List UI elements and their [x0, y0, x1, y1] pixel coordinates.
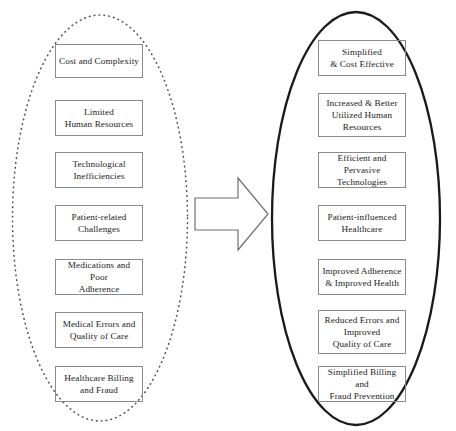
left-item-cost-and-complexity: Cost and Complexity [55, 44, 143, 78]
right-item-label: Improved Adherence& Improved Health [322, 265, 402, 289]
left-item-healthcare-billing-and-fraud: Healthcare Billingand Fraud [55, 366, 143, 402]
left-item-label: TechnologicalInefficiencies [59, 158, 139, 182]
right-item-simplified-and-cost-effective: Simplified& Cost Effective [318, 40, 406, 76]
left-item-medical-errors-and-quality-of-care: Medical Errors andQuality of Care [55, 312, 143, 348]
right-item-label: Simplified Billing andFraud Prevention [322, 366, 402, 402]
left-item-label: Healthcare Billingand Fraud [59, 372, 139, 396]
left-item-label: Medical Errors andQuality of Care [59, 318, 139, 342]
left-item-limited-human-resources: LimitedHuman Resources [55, 100, 143, 136]
diagram-canvas: Cost and Complexity LimitedHuman Resourc… [0, 0, 456, 431]
transformation-arrow-icon [195, 178, 268, 250]
left-item-label: Cost and Complexity [59, 55, 139, 67]
right-item-label: Patient-influencedHealthcare [322, 211, 402, 235]
left-item-technological-inefficiencies: TechnologicalInefficiencies [55, 152, 143, 188]
right-item-label: Efficient andPervasive Technologies [322, 152, 402, 188]
right-item-reduced-errors-and-improved-quality-of-care: Reduced Errors andImprovedQuality of Car… [318, 310, 406, 354]
left-item-label: Patient-relatedChallenges [59, 211, 139, 235]
right-item-label: Reduced Errors andImprovedQuality of Car… [322, 314, 402, 350]
right-item-label: Increased & BetterUtilized HumanResource… [322, 97, 402, 133]
left-item-patient-related-challenges: Patient-relatedChallenges [55, 205, 143, 241]
right-item-simplified-billing-and-fraud-prevention: Simplified Billing andFraud Prevention [318, 366, 406, 402]
left-item-medications-and-poor-adherence: Medications and PoorAdherence [55, 259, 143, 295]
left-item-label: LimitedHuman Resources [59, 106, 139, 130]
left-item-label: Medications and PoorAdherence [59, 259, 139, 295]
right-item-increased-and-better-utilized-human-resources: Increased & BetterUtilized HumanResource… [318, 93, 406, 137]
right-item-patient-influenced-healthcare: Patient-influencedHealthcare [318, 205, 406, 241]
right-item-improved-adherence-and-improved-health: Improved Adherence& Improved Health [318, 259, 406, 295]
right-item-efficient-and-pervasive-technologies: Efficient andPervasive Technologies [318, 152, 406, 188]
right-item-label: Simplified& Cost Effective [322, 46, 402, 70]
